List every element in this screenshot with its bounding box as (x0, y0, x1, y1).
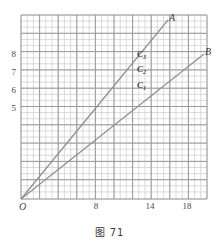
x-tick-8: 8 (88, 202, 104, 211)
grid-major (21, 15, 207, 199)
c1-subscript: 1 (143, 85, 146, 91)
point-label-c2: C2 (137, 65, 146, 74)
y-tick-7: 7 (4, 68, 16, 77)
point-label-c1: C1 (137, 81, 146, 90)
origin-label: O (19, 202, 26, 212)
y-tick-6: 6 (4, 86, 16, 95)
line-oa (21, 20, 168, 199)
y-tick-8: 8 (4, 50, 16, 59)
point-label-a: A (169, 13, 175, 23)
c3-subscript: 3 (143, 54, 146, 60)
x-tick-14: 14 (142, 202, 158, 211)
point-label-b: B (205, 47, 211, 57)
point-label-c3: C3 (137, 50, 146, 59)
figure-caption: 图 71 (0, 224, 219, 239)
figure-container: 8 7 6 5 8 14 18 O A B C3 C2 C1 图 71 (0, 0, 219, 246)
y-tick-5: 5 (4, 104, 16, 113)
c2-subscript: 2 (143, 69, 146, 75)
x-tick-18: 18 (179, 202, 195, 211)
